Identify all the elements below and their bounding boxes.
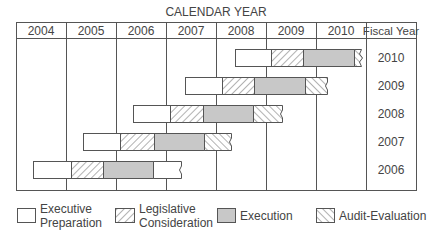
year-header: 2010 bbox=[328, 24, 355, 38]
legend-label: Preparation bbox=[40, 216, 102, 230]
legend-swatch-execution bbox=[218, 209, 236, 223]
legend-label: Audit-Evaluation bbox=[339, 209, 426, 223]
fiscal-year-labels: 2010 2009 2008 2007 2006 bbox=[378, 51, 405, 177]
legend-label: Consideration bbox=[139, 216, 213, 230]
bar-fy2008 bbox=[134, 106, 283, 123]
fiscal-year-label: 2007 bbox=[378, 135, 405, 149]
legend-label: Executive bbox=[40, 202, 92, 216]
bar-fy2007 bbox=[84, 134, 232, 151]
legend-label: Legislative bbox=[139, 202, 196, 216]
fiscal-year-label: 2008 bbox=[378, 107, 405, 121]
budget-cycle-diagram: CALENDAR YEAR 2004 2005 2006 2007 2008 2… bbox=[0, 0, 434, 242]
fiscal-year-label: 2009 bbox=[378, 79, 405, 93]
year-header: 2007 bbox=[178, 24, 205, 38]
year-header: 2008 bbox=[228, 24, 255, 38]
legend-swatch-audit-evaluation bbox=[317, 209, 335, 223]
fiscal-year-label: 2006 bbox=[378, 163, 405, 177]
bar-fy2006 bbox=[34, 162, 182, 179]
legend-swatch-executive-preparation bbox=[18, 209, 36, 223]
year-header: 2009 bbox=[278, 24, 305, 38]
year-headers: 2004 2005 2006 2007 2008 2009 2010 Fisca… bbox=[28, 24, 420, 38]
year-header: 2006 bbox=[128, 24, 155, 38]
fiscal-year-label: 2010 bbox=[378, 51, 405, 65]
legend-label: Execution bbox=[240, 209, 293, 223]
bar-fy2009 bbox=[186, 78, 328, 95]
year-header: 2004 bbox=[28, 24, 55, 38]
legend-swatch-legislative-consideration bbox=[116, 209, 135, 223]
chart-title: CALENDAR YEAR bbox=[165, 5, 266, 19]
fiscal-year-header: Fiscal Year bbox=[363, 25, 419, 37]
year-header: 2005 bbox=[78, 24, 105, 38]
bar-fy2010 bbox=[236, 50, 363, 67]
